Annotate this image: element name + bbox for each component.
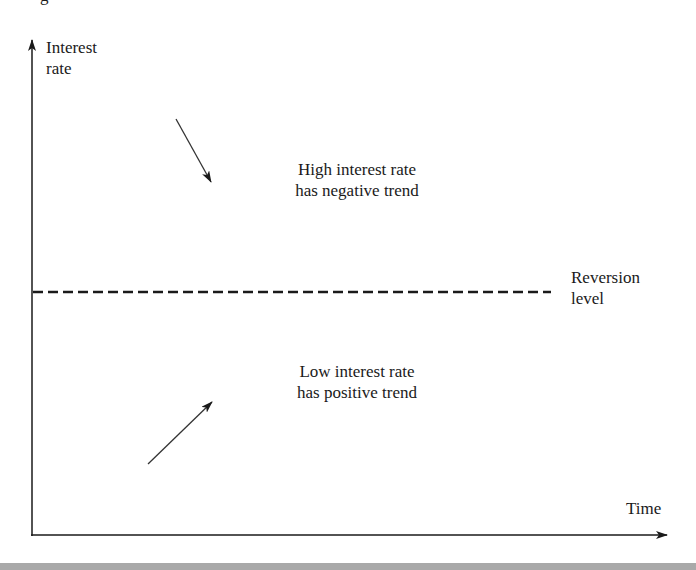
x-axis-label: Time	[626, 498, 661, 519]
low-rate-annotation: Low interest rate has positive trend	[262, 361, 452, 403]
positive-trend-arrow	[148, 402, 212, 464]
high-rate-line2: has negative trend	[262, 180, 452, 201]
reversion-label-line1: Reversion	[571, 267, 640, 288]
y-axis-label: Interest rate	[46, 37, 97, 79]
bottom-rule	[0, 563, 696, 570]
low-rate-line2: has positive trend	[262, 382, 452, 403]
high-rate-annotation: High interest rate has negative trend	[262, 159, 452, 201]
negative-trend-arrow	[176, 119, 211, 182]
y-axis-label-line1: Interest	[46, 37, 97, 58]
y-axis-label-line2: rate	[46, 58, 97, 79]
low-rate-line1: Low interest rate	[262, 361, 452, 382]
reversion-label-line2: level	[571, 288, 640, 309]
high-rate-line1: High interest rate	[262, 159, 452, 180]
reversion-level-label: Reversion level	[571, 267, 640, 309]
